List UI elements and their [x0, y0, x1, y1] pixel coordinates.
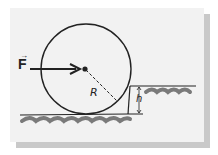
radius-label: R — [90, 86, 98, 99]
force-arrow-icon — [30, 64, 80, 74]
force-label: F — [18, 56, 27, 72]
height-label: h — [136, 93, 142, 104]
lower-ground — [20, 114, 130, 121]
diagram-canvas — [0, 0, 218, 155]
